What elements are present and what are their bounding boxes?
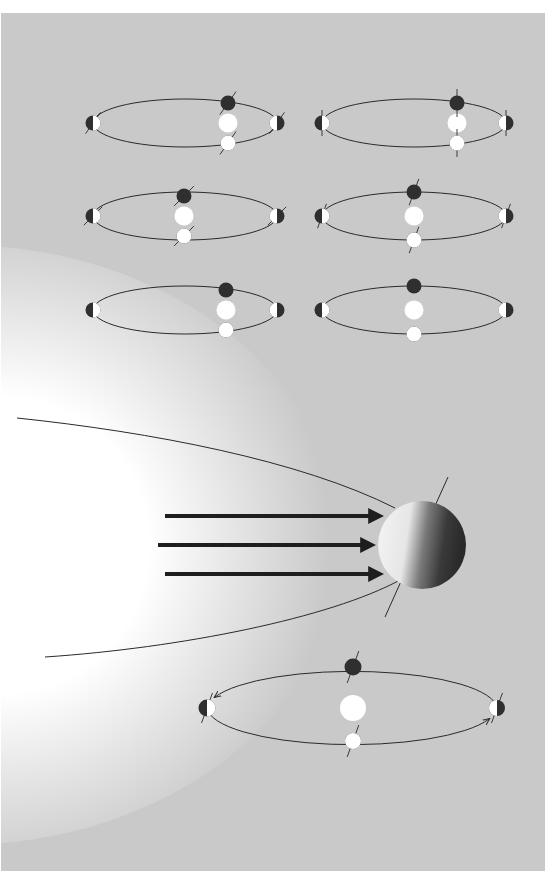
large-orbit-planet-right — [489, 700, 505, 716]
orbit-middle-right-planet-top — [407, 185, 422, 200]
orbit-middle-left-planet-bottom — [177, 229, 192, 244]
orbit-bottom-left-planet-top-dark — [219, 283, 234, 298]
large-orbit-planet-top — [345, 659, 362, 676]
orbit-middle-right-sun — [405, 207, 424, 226]
orbit-bottom-left-planet-left — [86, 303, 101, 318]
orbit-bottom-left-planet-bottom-lit — [219, 323, 234, 338]
large-orbit-planet-bottom-lit — [345, 733, 361, 749]
orbit-bottom-right-planet-right — [499, 303, 514, 318]
orbit-middle-right-planet-bottom — [407, 233, 422, 248]
orbit-middle-right-planet-left — [315, 209, 330, 224]
orbit-bottom-left-planet-right — [270, 303, 285, 318]
orbit-bottom-left-sun — [217, 301, 236, 320]
orbit-middle-left-sun — [175, 207, 194, 226]
orbit-bottom-right-planet-bottom-lit — [407, 327, 422, 342]
diagram-panel — [1, 13, 545, 871]
orbit-top-right-planet-top — [450, 96, 465, 111]
orbit-top-right-planet-left — [315, 116, 330, 131]
orbit-middle-right-planet-top-dark — [407, 185, 422, 200]
orbit-top-right-planet-bottom-lit — [450, 136, 465, 151]
orbit-top-left-planet-right — [270, 116, 285, 131]
orbit-top-left-sun — [219, 114, 238, 133]
seasons-diagram — [1, 13, 545, 871]
large-orbit-planet-top-dark — [345, 659, 362, 676]
orbit-middle-left-planet-left — [86, 209, 101, 224]
orbit-bottom-right-sun — [405, 301, 424, 320]
orbit-top-right-planet-right — [499, 116, 514, 131]
orbit-bottom-right-planet-bottom — [407, 327, 422, 342]
orbit-bottom-right-planet-top — [407, 279, 422, 294]
planet-globe — [378, 501, 466, 589]
large-orbit-planet-left — [199, 700, 216, 717]
orbit-top-right-planet-bottom — [450, 136, 465, 151]
orbit-bottom-right-planet-top-dark — [407, 279, 422, 294]
orbit-middle-right-planet-right — [499, 209, 514, 224]
orbit-middle-right-planet-bottom-lit — [407, 233, 422, 248]
orbit-middle-left-planet-top-dark — [177, 189, 192, 204]
orbit-top-left-planet-bottom — [221, 136, 236, 151]
large-orbit-sun — [340, 695, 366, 721]
orbit-top-left-planet-top-dark — [221, 96, 236, 111]
orbit-top-left-planet-left — [86, 116, 101, 131]
orbit-top-right-planet-top-dark — [450, 96, 465, 111]
orbit-bottom-right-planet-left — [315, 303, 330, 318]
orbit-bottom-left-planet-bottom — [219, 323, 234, 338]
orbit-top-left-planet-top — [221, 96, 236, 111]
orbit-middle-left-planet-top — [177, 189, 192, 204]
large-orbit-planet-bottom — [345, 733, 361, 749]
orbit-bottom-left-planet-top — [219, 283, 234, 298]
orbit-top-left-planet-bottom-lit — [221, 136, 236, 151]
orbit-middle-left-planet-right — [270, 209, 285, 224]
orbit-middle-left-planet-bottom-lit — [177, 229, 192, 244]
